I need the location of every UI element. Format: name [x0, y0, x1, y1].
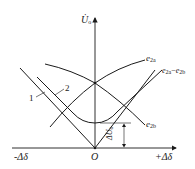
- x-neg-label: -Δδ: [14, 152, 28, 162]
- diagram-canvas: U̇o e2a e2a−e2b e2b 1 2 ΔUo -Δδ O +Δδ: [0, 0, 195, 169]
- x-pos-label: +Δδ: [155, 152, 172, 162]
- y-axis-label: U̇o: [81, 15, 91, 25]
- curve-real-with-residual: [37, 70, 162, 123]
- leader-2: [55, 89, 64, 95]
- diff-label: e2a−e2b: [162, 67, 185, 75]
- origin-point: [94, 147, 97, 150]
- diagram-svg: [0, 0, 195, 169]
- leader-1: [36, 92, 45, 97]
- line-2-label: 2: [65, 84, 70, 93]
- e2b-label: e2b: [146, 120, 156, 129]
- curve-e2a: [50, 60, 145, 127]
- crossing-point: [94, 82, 97, 85]
- delta-u-label: ΔUo: [106, 127, 114, 140]
- e2a-label: e2a: [146, 54, 156, 63]
- line-1-label: 1: [29, 94, 34, 103]
- origin-label: O: [91, 152, 98, 162]
